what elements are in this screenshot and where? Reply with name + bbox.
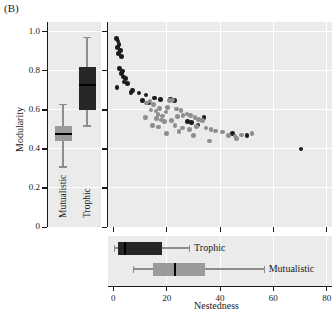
y-tick-label: 0.2 — [14, 183, 40, 192]
scatter-point-mutualistic — [162, 119, 167, 124]
boxplot-median — [55, 133, 72, 135]
x-tick — [326, 286, 327, 291]
scatter-point-mutualistic — [179, 108, 184, 113]
gridline-vertical-bottom — [166, 236, 167, 286]
scatter-point-mutualistic — [250, 131, 255, 136]
y-tick-scatter — [102, 109, 107, 110]
x-tick-scatter — [113, 227, 114, 232]
scatter-point-trophic — [152, 96, 157, 101]
scatter-point-mutualistic — [151, 102, 156, 107]
boxplot-whisker-cap — [59, 166, 67, 167]
x-tick-scatter — [220, 227, 221, 232]
y-tick-label: 1.0 — [14, 27, 40, 36]
category-label-mutualistic: Mutualistic — [58, 175, 68, 218]
modularity-y-axis — [47, 22, 48, 227]
x-tick-label: 60 — [259, 294, 287, 303]
boxplot-box-h — [153, 263, 204, 276]
scatter-point-mutualistic — [143, 115, 148, 120]
scatter-point-mutualistic — [157, 106, 162, 111]
boxplot-label-trophic: Trophic — [194, 242, 225, 253]
scatter-point-mutualistic — [239, 133, 244, 138]
y-tick-scatter — [102, 70, 107, 71]
scatter-point-mutualistic — [175, 114, 180, 119]
scatter-point-mutualistic — [187, 127, 192, 132]
modularity-boxplot-panel — [48, 22, 101, 227]
boxplot-median-h — [124, 242, 126, 255]
scatter-point-mutualistic — [165, 105, 170, 110]
scatter-point-trophic — [158, 97, 163, 102]
x-tick-scatter — [326, 227, 327, 232]
x-tick-label: 40 — [206, 294, 234, 303]
y-tick — [42, 187, 47, 188]
scatter-point-mutualistic — [174, 107, 179, 112]
y-tick — [42, 148, 47, 149]
scatter-point-mutualistic — [234, 136, 239, 141]
scatter-point-trophic — [119, 54, 124, 59]
scatter-point-mutualistic — [194, 124, 199, 129]
y-tick-scatter — [102, 31, 107, 32]
boxplot-box — [79, 67, 96, 109]
gridline-vertical-bottom — [326, 236, 327, 286]
gridline-vertical — [220, 22, 221, 227]
boxplot-whisker-cap — [83, 37, 91, 38]
scatter-point-mutualistic — [177, 129, 182, 134]
x-tick-label: 20 — [153, 294, 181, 303]
boxplot-whisker-cap — [83, 125, 91, 126]
x-tick-label: 0 — [99, 294, 127, 303]
boxplot-whisker-cap-h — [264, 266, 265, 273]
y-tick — [42, 31, 47, 32]
scatter-point-mutualistic — [226, 133, 231, 138]
boxplot-whisker-cap-h — [189, 245, 190, 252]
scatter-point-mutualistic — [200, 118, 205, 123]
scatter-point-mutualistic — [180, 126, 185, 131]
y-tick-scatter — [102, 148, 107, 149]
gridline-horizontal — [48, 148, 101, 149]
figure-panel-b: (B) Modularity Nestedness 00.20.40.60.81… — [0, 0, 336, 315]
x-tick-label: 80 — [313, 294, 336, 303]
gridline-vertical — [166, 22, 167, 227]
scatter-point-trophic — [245, 133, 250, 138]
x-tick — [113, 286, 114, 291]
gridline-vertical — [326, 22, 327, 227]
scatter-point-trophic — [129, 90, 134, 95]
y-tick — [42, 109, 47, 110]
y-tick-scatter — [102, 227, 107, 228]
scatter-y-axis — [107, 22, 108, 227]
x-tick — [273, 286, 274, 291]
x-tick-scatter — [273, 227, 274, 232]
y-tick-label: 0 — [14, 222, 40, 231]
scatter-point-mutualistic — [150, 123, 155, 128]
scatter-point-mutualistic — [164, 131, 169, 136]
y-tick-label: 0.6 — [14, 105, 40, 114]
scatter-point-mutualistic — [207, 139, 212, 144]
scatter-point-mutualistic — [169, 118, 174, 123]
y-tick-label: 0.4 — [14, 144, 40, 153]
gridline-vertical — [273, 22, 274, 227]
boxplot-median — [79, 84, 96, 86]
boxplot-whisker-cap-h — [114, 245, 115, 252]
y-tick — [42, 70, 47, 71]
gridline-vertical-bottom — [273, 236, 274, 286]
scatter-point-trophic — [125, 81, 130, 86]
y-tick — [42, 227, 47, 228]
scatter-point-mutualistic — [191, 133, 196, 138]
boxplot-whisker-cap — [59, 104, 67, 105]
y-tick-label: 0.8 — [14, 66, 40, 75]
category-label-trophic: Trophic — [82, 188, 92, 218]
y-tick-scatter — [102, 187, 107, 188]
panel-label: (B) — [4, 2, 19, 14]
boxplot-label-mutualistic: Mutualistic — [269, 263, 315, 274]
boxplot-median-h — [174, 263, 176, 276]
gridline-horizontal — [48, 187, 101, 188]
x-tick — [220, 286, 221, 291]
x-tick — [166, 286, 167, 291]
x-tick-scatter — [166, 227, 167, 232]
boxplot-whisker-cap-h — [133, 266, 134, 273]
gridline-horizontal — [48, 31, 101, 32]
